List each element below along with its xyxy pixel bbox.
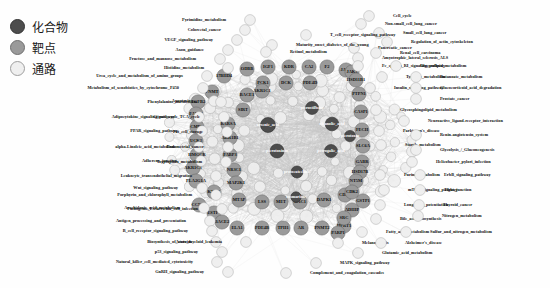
compound-node-label: pterostilbene	[300, 105, 323, 110]
pathway-node: Complement_and_coagulation_cascades	[281, 268, 385, 279]
pathway-node-label: p53_signaling_pathway	[155, 249, 199, 254]
network-figure: ODBBIGF1KDRCA2F2JAK217BHD4PCK1DCKPDE4DPN…	[0, 0, 550, 288]
pathway-node: Axon_guidance	[176, 45, 234, 56]
pathway-node: p53_signaling_pathway	[155, 247, 228, 258]
target-node-label: ELA1	[231, 225, 242, 230]
pathway-node-label: Thyroid_cancer	[443, 202, 472, 207]
compound-node-label: arsenic_acid	[257, 122, 280, 127]
target-node-label: NR3C1	[227, 167, 241, 172]
pathway-node: Glutamic_acid_metabolism	[353, 248, 433, 259]
target-node: KDR	[282, 60, 296, 74]
legend-item-target: 靶点	[10, 37, 68, 58]
target-node-label: PDE4D	[303, 80, 317, 85]
pathway-node: GnRH_signaling_pathway	[155, 267, 233, 278]
legend-item-pathway: 通路	[10, 58, 68, 79]
target-node-label: HSD11B1	[347, 77, 365, 82]
pathway-node-label: Pyrimidine_metabolism	[182, 17, 226, 22]
target-node: BACE1	[240, 88, 254, 102]
pathway-node-label: Nitrogen_metabolism	[442, 213, 482, 218]
pathway-node-label: VEGF_signaling_pathway	[165, 37, 214, 42]
target-node-label: CASP1	[354, 109, 368, 114]
pathway-node-label: Phenylalanine_metabolism	[148, 99, 198, 104]
pathway-node-label: ErbB_signaling_pathway	[444, 172, 491, 177]
target-node-label: ODBB	[241, 66, 254, 71]
target-node: PNMT2	[314, 221, 329, 235]
target-node: GSTP1	[356, 194, 370, 208]
pathway-node-label: Alzheimer's_disease	[405, 240, 442, 245]
legend-swatch-pathway	[10, 61, 25, 76]
pathway-node-label: PPAR_signaling_pathway	[130, 128, 179, 133]
target-node: DCK	[279, 76, 293, 90]
pathway-node: B_cell_receptor_signaling_pathway	[123, 226, 218, 237]
target-node-label: TPH1	[277, 225, 288, 230]
pathway-node-label: Fat_cell_storage	[173, 129, 203, 134]
target-node-label: DAPK1	[317, 197, 332, 202]
target-node-label: PTPN1	[352, 91, 366, 96]
pathway-node: VEGF_signaling_pathway	[165, 35, 243, 46]
pathway-node-label: Maturity_onset_diabetes_of_the_young	[296, 42, 369, 47]
target-node-label: FECH	[356, 127, 369, 132]
target-node-label: AKR1C1	[253, 88, 270, 93]
target-node-label: LSS	[258, 199, 266, 204]
target-node-label: NT5M	[350, 178, 363, 183]
target-node: PDE4B	[255, 221, 269, 235]
target-node: PDE4D	[303, 76, 317, 90]
target-node-label: GABR	[356, 159, 370, 164]
pathway-node-label: Glycosphingolipid_metabolism	[400, 107, 457, 112]
pathway-node: Helicobacter_pylori_infection	[407, 157, 492, 168]
pathway-node-label: Parkinson's_disease	[403, 128, 440, 133]
target-node-label: IGF1	[263, 64, 273, 69]
pathway-node-label: Metabolism_of_xenobiotics_by_cytochrome_…	[87, 85, 179, 90]
target-node: CA2	[302, 60, 316, 74]
legend-label-compound: 化合物	[32, 18, 68, 35]
pathway-node: Amyotrophic_lateral_sclerosis_ALS	[353, 53, 449, 64]
pathway-node: Colorectal_cancer	[188, 25, 251, 36]
target-node: IGF1	[261, 60, 275, 74]
legend-label-target: 靶点	[32, 39, 56, 56]
pathway-node: Pyrimidine_metabolism	[182, 15, 255, 26]
pathway-node: Fructose_and_mannose_metabolism	[129, 54, 225, 65]
pathway-node-label: Glucocorticoid_acid_degradation	[440, 85, 502, 90]
target-node: DAPK1	[317, 193, 332, 207]
target-node: F2	[320, 60, 334, 74]
pathway-node-label: Colorectal_cancer	[188, 27, 221, 32]
pathway-node: Prostate_cancer	[411, 94, 470, 105]
target-node-label: F2	[325, 64, 330, 69]
target-node-label: MAP2K1	[227, 180, 245, 185]
pathway-node-label: Cell_cycle	[393, 13, 412, 18]
pathway-node: Bile_acid_biosynthesis	[371, 214, 442, 225]
target-node: MTAP	[232, 193, 246, 207]
target-node-label: HSD17B	[352, 169, 368, 174]
pathway-node-label: Glutamic_acid_metabolism	[382, 250, 433, 255]
target-node: PTPN1	[352, 87, 366, 101]
pathway-node-label: Endometrial_cancer	[167, 144, 205, 149]
target-node-label: CDK2	[346, 189, 358, 194]
pathway-node-label: Glycerolipid_metabolism	[420, 63, 467, 68]
pathway-node-label: Wnt_signaling_pathway	[133, 185, 179, 190]
target-node: BACE2	[215, 215, 229, 229]
pathway-node: Antigen_processing_and_presentation	[116, 216, 215, 227]
pathway-node-label: Urea_cycle_and_metabolism_of_amino_group…	[96, 73, 183, 78]
pathway-node-label: Natural_killer_cell_mediated_cytotoxicit…	[116, 259, 194, 264]
pathway-node-label: B_cell_receptor_signaling_pathway	[123, 228, 189, 233]
target-node-label: CA2	[305, 64, 314, 69]
pathway-node-label: Axon_guidance	[176, 47, 205, 52]
target-node-label: AR	[298, 225, 305, 230]
pathway-node: Long-term_potentiation	[375, 200, 449, 211]
pathway-node-label: Porphyrin_and_chlorophyll_metabolism	[117, 192, 192, 197]
pathway-node-label: Butanoate_metabolism	[440, 74, 483, 79]
pathway-node-label: Tight_junction	[444, 187, 472, 192]
pathway-node: Cell_cycle	[364, 11, 412, 22]
target-node: TPH1	[276, 221, 290, 235]
compound-node-label: picrotoxinin	[266, 148, 288, 153]
pathway-node-label: Sulfur_and_nitrogen_metabolism	[430, 229, 492, 234]
pathway-node-label: Amyotrophic_lateral_sclerosis_ALS	[382, 55, 449, 60]
target-node-label: DCK	[281, 80, 291, 85]
legend: 化合物 靶点 通路	[10, 16, 68, 79]
pathway-node-label: Leukocyte_transendothelial_migration	[121, 173, 193, 178]
pathway-node-label: Retinol_metabolism	[290, 49, 327, 54]
target-node: AR	[294, 221, 308, 235]
pathway-node: Neuroactive_ligand-receptor_interaction	[399, 116, 504, 127]
pathway-node-label: MAPK_signaling_pathway	[340, 260, 391, 265]
legend-item-compound: 化合物	[10, 16, 68, 37]
